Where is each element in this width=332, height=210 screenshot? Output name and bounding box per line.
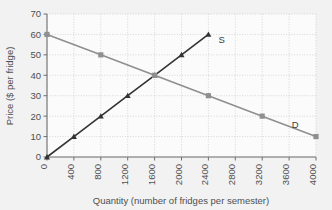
x-tick-label: 3200: [253, 164, 264, 185]
data-point-marker: [44, 32, 49, 37]
x-tick-label: 2000: [173, 164, 184, 185]
x-tick-label: 1200: [119, 164, 130, 185]
x-axis-title: Quantity (number of fridges per semester…: [93, 195, 269, 206]
y-tick-label: 20: [30, 111, 41, 122]
y-tick-label: 30: [30, 90, 41, 101]
x-tick-label: 0: [38, 164, 49, 169]
y-tick-label: 10: [30, 131, 41, 142]
y-tick-label: 50: [30, 49, 41, 60]
series-label-d: D: [292, 119, 299, 130]
chart-container: 040080012001600200024002800320036004000 …: [0, 0, 332, 210]
x-tick-label: 400: [65, 164, 76, 180]
x-tick-label: 2400: [199, 164, 210, 185]
y-tick-label: 70: [30, 8, 41, 19]
x-tick-label: 2800: [226, 164, 237, 185]
series-label-s: S: [218, 34, 224, 45]
x-tick-label: 1600: [146, 164, 157, 185]
y-axis-title: Price ($ per fridge): [4, 47, 15, 126]
data-point-marker: [313, 134, 318, 139]
supply-demand-chart: 040080012001600200024002800320036004000 …: [0, 0, 332, 210]
x-tick-label: 4000: [307, 164, 318, 185]
x-tick-label: 800: [92, 164, 103, 180]
x-tick-label: 3600: [280, 164, 291, 185]
data-point-marker: [98, 52, 103, 57]
data-point-marker: [260, 114, 265, 119]
y-tick-label: 0: [36, 151, 41, 162]
y-tick-label: 40: [30, 70, 41, 81]
y-tick-label: 60: [30, 29, 41, 40]
data-point-marker: [152, 73, 157, 78]
data-point-marker: [206, 93, 211, 98]
